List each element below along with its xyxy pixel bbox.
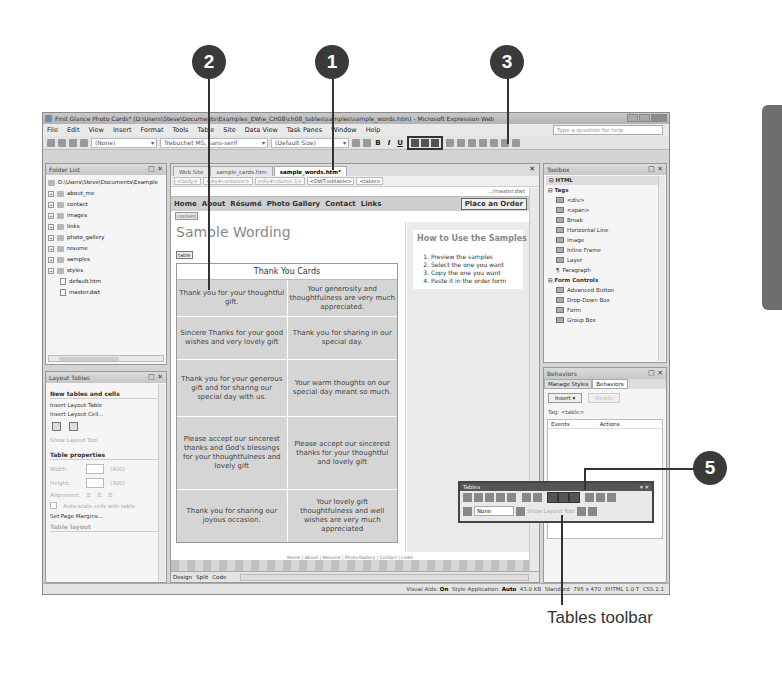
menu-tools[interactable]: Tools [172, 124, 188, 136]
table-cell[interactable]: Sincere Thanks for your good wishes and … [177, 317, 287, 359]
doctype[interactable]: XHTML 1.0 T [604, 586, 639, 592]
menu-task-panes[interactable]: Task Panes [287, 124, 322, 136]
style-select[interactable]: (None) [91, 138, 157, 148]
folder-item[interactable]: +about_me [48, 188, 164, 199]
borders-icon[interactable] [490, 139, 498, 147]
toolbox-item-form[interactable]: Form [546, 305, 664, 315]
toolbox-item-iframe[interactable]: Inline Frame [546, 245, 664, 255]
height-input[interactable] [86, 478, 104, 488]
place-order-button[interactable]: Place an Order [461, 198, 527, 210]
set-page-margins-link[interactable]: Set Page Margins... [50, 513, 162, 519]
bold-button[interactable]: B [374, 139, 382, 147]
draw-layout-table-icon[interactable] [577, 507, 586, 516]
font-color-icon[interactable] [512, 139, 520, 147]
merge-cells-icon[interactable] [522, 493, 531, 502]
draw-layout-cell-icon[interactable] [69, 422, 78, 431]
toolbox-item-break[interactable]: Break [546, 215, 664, 225]
font-size-select[interactable]: (Default Size) [271, 138, 349, 148]
fill-select[interactable]: None [474, 506, 514, 516]
align-center-icon[interactable] [421, 139, 429, 147]
font-select[interactable]: Trebuchet MS, sans-serif [160, 138, 268, 148]
toolbox-item-layer[interactable]: Layer [546, 255, 664, 265]
delete-behavior-button[interactable]: Delete [588, 393, 620, 403]
insert-columns-right-icon[interactable] [496, 493, 505, 502]
panel-close-icon[interactable]: □ ✕ [148, 164, 163, 175]
fill-down-icon[interactable] [516, 507, 525, 516]
fill-color-icon[interactable] [463, 507, 472, 516]
thank-you-table[interactable]: Thank You Cards Thank you for your thoug… [176, 263, 398, 543]
tab-behaviors[interactable]: Behaviors [592, 379, 627, 389]
nav-about[interactable]: About [202, 197, 226, 211]
horizontal-scrollbar[interactable] [48, 355, 164, 362]
bullets-icon[interactable] [457, 139, 465, 147]
insert-rows-above-icon[interactable] [463, 493, 472, 502]
menu-edit[interactable]: Edit [67, 124, 80, 136]
show-layout-tool-toggle[interactable]: Show Layout Tool [50, 437, 162, 443]
nav-photo-gallery[interactable]: Photo Gallery [267, 197, 321, 211]
design-view-button[interactable]: Design [173, 574, 192, 580]
nav-links[interactable]: Links [361, 197, 382, 211]
toolbox-item-advanced-button[interactable]: Advanced Button [546, 285, 664, 295]
align-right-icon[interactable] [431, 139, 439, 147]
split-view-button[interactable]: Split [196, 574, 208, 580]
table-cell[interactable]: Thank you for sharing in our special day… [288, 317, 398, 359]
distribute-rows-icon[interactable] [585, 493, 594, 502]
show-layout-tool-button[interactable]: Show Layout Tool [527, 508, 575, 514]
close-button[interactable] [651, 114, 667, 122]
preview-icon[interactable] [80, 139, 88, 147]
menu-data-view[interactable]: Data View [245, 124, 278, 136]
draw-layout-cell-icon[interactable] [588, 507, 597, 516]
width-input[interactable] [86, 464, 104, 474]
file-item[interactable]: master.dwt [48, 287, 164, 298]
folder-item[interactable]: +samples [48, 254, 164, 265]
redo-icon[interactable] [363, 139, 371, 147]
insert-rows-below-icon[interactable] [474, 493, 483, 502]
toolbox-item-dropdown[interactable]: Drop-Down Box [546, 295, 664, 305]
folder-item[interactable]: +resume [48, 243, 164, 254]
horizontal-scrollbar[interactable] [240, 574, 529, 581]
draw-layout-table-icon[interactable] [52, 422, 61, 431]
group-form-controls[interactable]: ⊟ Form Controls [546, 275, 664, 285]
crumb-body[interactable]: <body> [174, 177, 201, 185]
category-html[interactable]: ⊟ HTML [546, 176, 664, 185]
crumb-container[interactable]: <div#container> [203, 177, 253, 185]
new-page-icon[interactable] [47, 139, 55, 147]
delete-cells-icon[interactable] [507, 493, 516, 502]
table-cell[interactable]: Your lovely gift thoughtfulness and well… [288, 490, 398, 542]
open-icon[interactable] [58, 139, 66, 147]
panel-close-icon[interactable]: □ ✕ [648, 368, 663, 379]
insert-layout-cell-link[interactable]: Insert Layout Cell... [50, 411, 162, 417]
tab-sample-words[interactable]: sample_words.htm* [274, 166, 347, 176]
folder-item[interactable]: +styles [48, 265, 164, 276]
nav-home[interactable]: Home [174, 197, 197, 211]
folder-item[interactable]: +images [48, 210, 164, 221]
table-cell[interactable]: Your warm thoughts on our special day me… [288, 360, 398, 416]
menu-format[interactable]: Format [141, 124, 164, 136]
file-item[interactable]: default.htm [48, 276, 164, 287]
menu-file[interactable]: File [47, 124, 58, 136]
nav-contact[interactable]: Contact [325, 197, 356, 211]
undo-icon[interactable] [352, 139, 360, 147]
table-cell[interactable]: Thank you for sharing our joyous occasio… [177, 490, 287, 542]
table-cell[interactable]: Thank you for your generous gift and for… [177, 360, 287, 416]
underline-button[interactable]: U [396, 139, 404, 147]
toolbar-close-icon[interactable]: ▾ ✕ [640, 483, 649, 491]
crumb-table[interactable]: <table> [356, 177, 383, 185]
panel-close-icon[interactable]: □ ✕ [148, 372, 163, 383]
table-cell[interactable]: Thank you for your thoughtful gift. [177, 280, 287, 316]
toolbox-item-paragraph[interactable]: ¶Paragraph [546, 265, 664, 275]
folder-item[interactable]: +photo_gallery [48, 232, 164, 243]
panel-close-icon[interactable]: □ ✕ [648, 164, 663, 175]
toolbox-item-group-box[interactable]: Group Box [546, 315, 664, 325]
visual-aids-value[interactable]: On [440, 586, 449, 592]
tab-manage-styles[interactable]: Manage Styles [544, 379, 592, 389]
italic-button[interactable]: I [385, 139, 393, 147]
css-version[interactable]: CSS 2.1 [643, 586, 664, 592]
style-application-value[interactable]: Auto [502, 586, 517, 592]
toolbox-item-hr[interactable]: Horizontal Line [546, 225, 664, 235]
menu-insert[interactable]: Insert [113, 124, 132, 136]
center-vertically-icon[interactable] [559, 493, 568, 502]
toolbox-item-span[interactable]: <span> [546, 205, 664, 215]
folder-root[interactable]: D:\Users\Steve\Documents\Example [48, 177, 164, 188]
table-cell[interactable]: Please accept our sincerest thanks and G… [177, 417, 287, 489]
